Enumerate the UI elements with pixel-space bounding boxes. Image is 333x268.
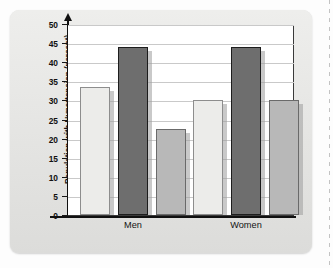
bar xyxy=(80,87,110,215)
y-axis-tick-mark xyxy=(62,24,68,25)
bar-chart: Population with Hypertension (percent) 0… xyxy=(24,17,300,245)
y-axis-tick-mark xyxy=(62,43,68,44)
y-axis-tick-label: 15 xyxy=(18,155,58,163)
scanned-page: Population with Hypertension (percent) 0… xyxy=(0,0,333,268)
y-axis-tick-label: 45 xyxy=(18,40,58,48)
y-axis-tick-label: 30 xyxy=(18,97,58,105)
y-axis-tick-label: 0 xyxy=(18,212,58,220)
y-axis-tick-mark xyxy=(62,139,68,140)
bar xyxy=(269,100,299,215)
y-axis-tick-mark xyxy=(62,62,68,63)
bar-body xyxy=(269,100,299,215)
y-axis-arrow-icon xyxy=(64,13,72,21)
bar-body xyxy=(118,47,148,215)
x-axis-tick-label: Women xyxy=(206,220,286,230)
bar-body xyxy=(80,87,110,215)
y-axis-tick-mark xyxy=(62,100,68,101)
y-axis-tick-label: 35 xyxy=(18,78,58,86)
y-axis-tick-label: 50 xyxy=(18,21,58,29)
y-axis-tick-label: 40 xyxy=(18,59,58,67)
y-axis-tick-label: 20 xyxy=(18,136,58,144)
y-axis-tick-mark xyxy=(62,81,68,82)
y-axis-tick-mark xyxy=(62,196,68,197)
figure-panel: Population with Hypertension (percent) 0… xyxy=(10,10,312,253)
y-axis-tick-mark xyxy=(62,215,68,216)
scan-edge-artifact xyxy=(329,0,330,268)
gridline xyxy=(68,44,294,45)
bar xyxy=(156,129,186,215)
y-axis-tick-mark xyxy=(62,158,68,159)
bar xyxy=(231,47,261,215)
x-axis-line xyxy=(50,216,296,218)
y-axis-tick-label: 25 xyxy=(18,117,58,125)
gridline xyxy=(68,25,294,26)
y-axis-tick-label: 10 xyxy=(18,174,58,182)
bar-body xyxy=(193,100,223,215)
bar-body xyxy=(231,47,261,215)
y-axis-tick-mark xyxy=(62,120,68,121)
y-axis-tick-mark xyxy=(62,177,68,178)
y-axis-tick-label: 5 xyxy=(18,193,58,201)
plot-area xyxy=(68,25,294,216)
x-axis-tick-label: Men xyxy=(93,220,173,230)
bar xyxy=(193,100,223,215)
bar-body xyxy=(156,129,186,215)
bar xyxy=(118,47,148,215)
